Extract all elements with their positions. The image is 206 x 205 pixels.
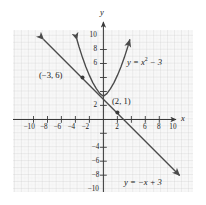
y-axis-label: y xyxy=(100,8,104,17)
y-tick-label-neg4: −4 xyxy=(92,144,100,151)
parabola-equation-prefix: y = x xyxy=(127,57,145,67)
point-label-neg3-6: (−3, 6) xyxy=(39,71,62,80)
x-tick-label-10: 10 xyxy=(169,124,176,131)
y-tick-label-neg10: −10 xyxy=(88,186,99,193)
y-tick-label-neg8: −8 xyxy=(92,172,100,179)
x-tick-label-neg2: −2 xyxy=(82,124,90,131)
coordinate-plane-graph: −10 −8 −6 −4 −2 2 6 8 10 2 6 8 10 −4 −6 … xyxy=(0,0,206,205)
plot-canvas xyxy=(0,0,206,205)
line-equation-label: y = −x + 3 xyxy=(124,178,162,187)
y-tick-label-2: 2 xyxy=(94,102,98,109)
intersection-point-marker-right xyxy=(115,110,119,114)
y-tick-label-10: 10 xyxy=(90,32,97,39)
point-label-2-1: (2, 1) xyxy=(112,97,131,106)
x-tick-label-2: 2 xyxy=(115,124,119,131)
x-tick-label-neg8: −8 xyxy=(40,124,48,131)
y-tick-label-6: 6 xyxy=(94,60,98,67)
x-tick-label-neg10: −10 xyxy=(24,124,35,131)
x-tick-label-neg4: −4 xyxy=(68,124,76,131)
x-tick-label-8: 8 xyxy=(157,124,161,131)
y-tick-label-neg6: −6 xyxy=(92,158,100,165)
parabola-equation-label: y = x2 − 3 xyxy=(127,58,162,67)
y-tick-label-8: 8 xyxy=(94,46,98,53)
x-tick-label-6: 6 xyxy=(143,124,147,131)
x-tick-label-neg6: −6 xyxy=(54,124,62,131)
intersection-point-marker-left xyxy=(81,76,85,80)
x-axis-label: x xyxy=(181,114,185,123)
parabola-equation-suffix: − 3 xyxy=(148,57,162,67)
